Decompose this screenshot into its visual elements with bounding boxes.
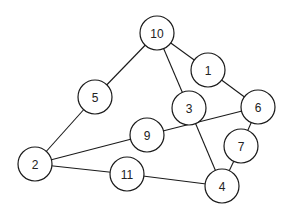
node-label: 5 <box>92 91 99 105</box>
node-label: 10 <box>150 27 164 41</box>
node-11: 11 <box>110 157 144 191</box>
node-10: 10 <box>140 16 174 50</box>
node-label: 11 <box>121 168 134 182</box>
node-label: 2 <box>32 158 39 172</box>
node-3: 3 <box>172 91 206 125</box>
graph-diagram: 123456791011 <box>0 0 291 211</box>
node-4: 4 <box>205 169 239 203</box>
node-label: 1 <box>205 64 212 78</box>
node-label: 9 <box>144 129 151 143</box>
node-1: 1 <box>191 53 225 87</box>
node-label: 3 <box>186 102 193 116</box>
node-label: 7 <box>238 140 245 154</box>
node-2: 2 <box>18 147 52 181</box>
node-5: 5 <box>78 80 112 114</box>
node-label: 4 <box>219 180 226 194</box>
node-9: 9 <box>130 118 164 152</box>
node-layer: 123456791011 <box>18 16 275 203</box>
node-6: 6 <box>241 90 275 124</box>
node-7: 7 <box>224 129 258 163</box>
node-label: 6 <box>255 101 262 115</box>
edge-layer <box>35 33 258 186</box>
